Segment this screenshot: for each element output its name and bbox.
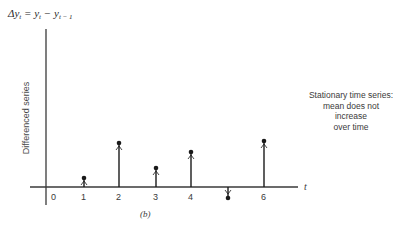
tick-label-2: 2 <box>116 192 121 202</box>
tick-label-4: 4 <box>188 192 193 202</box>
stem-t4 <box>188 150 194 187</box>
x-axis-label: t <box>304 181 307 192</box>
stem-t1 <box>81 176 87 187</box>
tick-label-3: 3 <box>153 192 158 202</box>
tick-label-1: 1 <box>81 192 86 202</box>
stem-t3 <box>153 166 159 187</box>
stem-t6 <box>261 139 267 187</box>
tick-label-0: 0 <box>51 192 56 202</box>
stem-t5 <box>225 187 231 200</box>
tick-label-6: 6 <box>261 192 266 202</box>
stem-t2 <box>116 141 122 187</box>
